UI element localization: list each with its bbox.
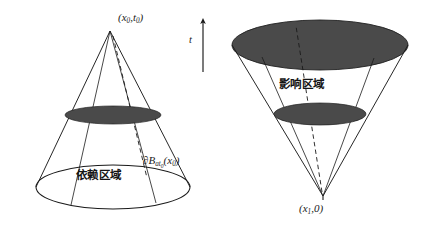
right-cone-group: [232, 20, 408, 200]
right-cone-shaded-section: [274, 103, 366, 125]
domain-of-influence-label: 影响区域: [279, 79, 325, 91]
left-cone-boundary-ball-label: ∂Bat0(x0): [143, 155, 179, 166]
figure-root: (x0,t0) ∂Bat0(x0) 依赖区域 影响区域 (x1,0) t: [0, 0, 430, 231]
domain-of-dependence-label: 依赖区域: [76, 170, 122, 182]
left-cone-apex-label: (x0,t0): [118, 12, 143, 23]
left-cone-shaded-section: [65, 106, 161, 124]
t-axis-label: t: [189, 35, 192, 46]
right-cone-ruling-b: [323, 58, 374, 196]
figure-canvas: [0, 0, 430, 231]
right-cone-top-disk: [232, 20, 408, 70]
left-cone-group: [36, 31, 190, 209]
right-cone-apex-label: (x1,0): [299, 203, 323, 214]
